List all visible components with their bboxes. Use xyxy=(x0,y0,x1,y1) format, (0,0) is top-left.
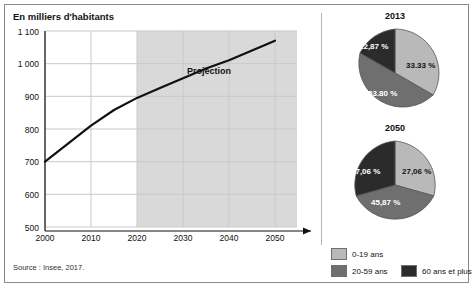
legend-item-0-19: 0-19 ans xyxy=(331,248,383,260)
legend-swatch-60plus-icon xyxy=(401,265,417,277)
x-tick-2010: 2010 xyxy=(74,233,108,243)
legend-label-20-59: 20-59 ans xyxy=(352,267,388,276)
chart-figure-frame: En milliers d'habitants xyxy=(4,4,469,283)
source-note: Source : Insee, 2017. xyxy=(13,263,84,272)
pie-2013-svg xyxy=(335,23,455,123)
x-tick-2000: 2000 xyxy=(28,233,62,243)
pie-2013-title: 2013 xyxy=(335,11,455,21)
projection-annotation: Projection xyxy=(187,66,231,76)
x-tick-2030: 2030 xyxy=(166,233,200,243)
line-chart: Projection 500 600 700 800 900 1 000 1 1… xyxy=(11,27,326,252)
y-tick-700: 700 xyxy=(9,157,39,167)
legend-swatch-20-59-icon xyxy=(331,265,347,277)
y-tick-800: 800 xyxy=(9,125,39,135)
pie-2050-value-0-19: 27,06 % xyxy=(402,167,431,176)
figure-title: En milliers d'habitants xyxy=(13,11,114,22)
legend-item-20-59: 20-59 ans xyxy=(331,265,388,277)
y-tick-1100: 1 100 xyxy=(5,27,39,37)
line-chart-svg xyxy=(11,27,326,252)
y-tick-600: 600 xyxy=(9,190,39,200)
x-tick-2020: 2020 xyxy=(120,233,154,243)
x-axis-arrow xyxy=(303,228,311,235)
pie-2050-value-60plus: 27,06 % xyxy=(351,167,380,176)
y-tick-500: 500 xyxy=(9,223,39,233)
pie-2050-svg xyxy=(335,135,455,235)
pie-chart-2013: 12,87 % 33.33 % 53.80 % xyxy=(335,23,455,123)
pie-chart-2050: 27,06 % 27,06 % 45,87 % xyxy=(335,135,455,235)
legend-label-0-19: 0-19 ans xyxy=(352,250,383,259)
pie-2050-value-20-59: 45,87 % xyxy=(371,198,400,207)
pie-2013-value-60plus: 12,87 % xyxy=(359,42,388,51)
x-tick-2050: 2050 xyxy=(258,233,292,243)
pie-2013-value-20-59: 53.80 % xyxy=(368,89,397,98)
y-tick-900: 900 xyxy=(9,92,39,102)
legend-swatch-0-19-icon xyxy=(331,248,347,260)
pie-2050-title: 2050 xyxy=(335,123,455,133)
y-tick-1000: 1 000 xyxy=(5,59,39,69)
pie-2013-value-0-19: 33.33 % xyxy=(406,61,435,70)
panel-divider xyxy=(321,13,322,245)
legend-label-60plus: 60 ans et plus xyxy=(422,267,472,276)
x-tick-2040: 2040 xyxy=(212,233,246,243)
legend-item-60plus: 60 ans et plus xyxy=(401,265,472,277)
